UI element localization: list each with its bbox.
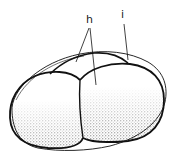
leader-i [124,24,128,60]
right-lobe-stipple [78,60,176,150]
left-lobe-stipple [0,60,90,157]
leader-h-left [76,28,89,62]
label-i: i [121,9,124,20]
label-h: h [86,14,93,25]
